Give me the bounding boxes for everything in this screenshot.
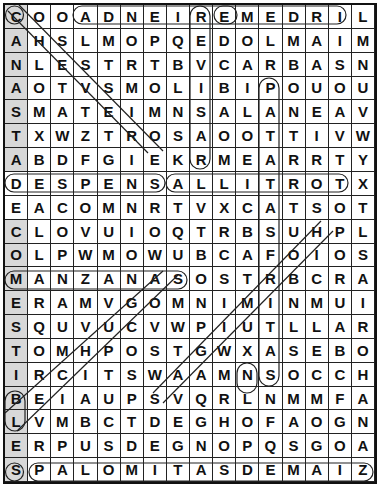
grid-cell[interactable]: N [190,434,213,458]
grid-cell[interactable]: E [236,148,259,172]
grid-cell[interactable]: A [144,267,167,291]
grid-cell[interactable]: M [121,77,144,101]
grid-cell[interactable]: O [283,363,306,387]
grid-cell[interactable]: A [5,148,28,172]
grid-cell[interactable]: S [144,172,167,196]
grid-cell[interactable]: A [213,100,236,124]
grid-cell[interactable]: S [190,100,213,124]
grid-cell[interactable]: I [5,363,28,387]
grid-cell[interactable]: U [98,315,121,339]
grid-cell[interactable]: C [329,363,352,387]
grid-cell[interactable]: A [236,244,259,268]
grid-cell[interactable]: P [98,339,121,363]
grid-cell[interactable]: L [28,244,51,268]
grid-cell[interactable]: E [5,196,28,220]
grid-cell[interactable]: A [28,196,51,220]
grid-cell[interactable]: A [306,53,329,77]
grid-cell[interactable]: A [352,387,375,411]
grid-cell[interactable]: P [51,434,74,458]
grid-cell[interactable]: L [352,5,375,29]
grid-cell[interactable]: B [329,339,352,363]
grid-cell[interactable]: O [144,77,167,101]
grid-cell[interactable]: E [306,339,329,363]
grid-cell[interactable]: S [5,315,28,339]
grid-cell[interactable]: L [236,387,259,411]
grid-cell[interactable]: T [5,124,28,148]
grid-cell[interactable]: T [190,220,213,244]
grid-cell[interactable]: D [236,458,259,482]
grid-cell[interactable]: C [51,196,74,220]
grid-cell[interactable]: N [352,410,375,434]
grid-cell[interactable]: F [259,410,282,434]
grid-cell[interactable]: W [74,244,97,268]
grid-cell[interactable]: M [51,339,74,363]
grid-cell[interactable]: Q [259,434,282,458]
grid-cell[interactable]: H [352,363,375,387]
grid-cell[interactable]: Z [352,458,375,482]
grid-cell[interactable]: E [259,5,282,29]
grid-cell[interactable]: R [28,434,51,458]
grid-cell[interactable]: D [283,5,306,29]
grid-cell[interactable]: H [213,410,236,434]
grid-cell[interactable]: P [121,387,144,411]
grid-cell[interactable]: I [74,363,97,387]
grid-cell[interactable]: S [74,53,97,77]
grid-cell[interactable]: A [51,100,74,124]
grid-cell[interactable]: I [121,100,144,124]
grid-cell[interactable]: T [259,124,282,148]
grid-cell[interactable]: V [28,410,51,434]
grid-cell[interactable]: A [236,53,259,77]
grid-cell[interactable]: Q [167,29,190,53]
grid-cell[interactable]: B [213,77,236,101]
grid-cell[interactable]: L [283,315,306,339]
grid-cell[interactable]: O [329,196,352,220]
grid-cell[interactable]: A [259,148,282,172]
grid-cell[interactable]: O [28,77,51,101]
grid-cell[interactable]: R [352,315,375,339]
grid-cell[interactable]: A [190,363,213,387]
grid-cell[interactable]: R [306,148,329,172]
grid-cell[interactable]: T [283,196,306,220]
grid-cell[interactable]: B [190,244,213,268]
grid-cell[interactable]: E [144,434,167,458]
grid-cell[interactable]: L [28,220,51,244]
grid-cell[interactable]: T [259,172,282,196]
grid-cell[interactable]: M [213,363,236,387]
grid-cell[interactable]: N [121,267,144,291]
grid-cell[interactable]: I [236,172,259,196]
grid-cell[interactable]: M [51,410,74,434]
grid-cell[interactable]: A [306,458,329,482]
grid-cell[interactable]: A [51,458,74,482]
grid-cell[interactable]: L [213,172,236,196]
grid-cell[interactable]: B [5,387,28,411]
grid-cell[interactable]: X [236,339,259,363]
grid-cell[interactable]: W [213,339,236,363]
grid-cell[interactable]: D [98,5,121,29]
grid-cell[interactable]: S [144,339,167,363]
grid-cell[interactable]: R [213,220,236,244]
grid-cell[interactable]: S [167,124,190,148]
grid-cell[interactable]: M [167,291,190,315]
grid-cell[interactable]: D [121,434,144,458]
grid-cell[interactable]: W [144,363,167,387]
grid-cell[interactable]: C [213,244,236,268]
grid-cell[interactable]: O [190,267,213,291]
grid-cell[interactable]: T [167,339,190,363]
grid-cell[interactable]: I [51,387,74,411]
grid-cell[interactable]: M [98,196,121,220]
grid-cell[interactable]: X [213,196,236,220]
grid-cell[interactable]: O [121,29,144,53]
grid-cell[interactable]: O [213,124,236,148]
grid-cell[interactable]: U [283,220,306,244]
grid-cell[interactable]: G [306,434,329,458]
grid-cell[interactable]: N [121,5,144,29]
grid-cell[interactable]: S [259,363,282,387]
grid-cell[interactable]: I [190,77,213,101]
grid-cell[interactable]: A [329,100,352,124]
grid-cell[interactable]: R [121,53,144,77]
grid-cell[interactable]: T [236,267,259,291]
grid-cell[interactable]: C [5,5,28,29]
grid-cell[interactable]: U [329,291,352,315]
grid-cell[interactable]: S [352,244,375,268]
grid-cell[interactable]: T [144,53,167,77]
